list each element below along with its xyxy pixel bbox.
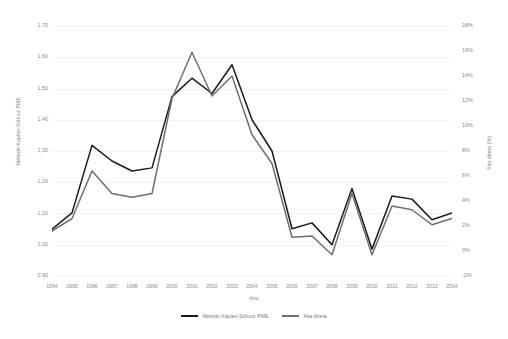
grid-line	[52, 276, 452, 277]
legend-label: Alta direta	[303, 313, 326, 319]
series-line	[52, 65, 452, 249]
y-axis-right-tick-label: 6%	[462, 173, 492, 178]
y-axis-left-title: Método Kaplan-Schuur PME	[15, 97, 21, 165]
y-axis-right-tick-label: -2%	[462, 273, 492, 278]
y-axis-left-tick-label: 1,70	[22, 23, 48, 28]
y-axis-left-tick-label: 0,90	[22, 273, 48, 278]
y-axis-left-tick-label: 1,60	[22, 54, 48, 59]
y-axis-left-tick-label: 1,30	[22, 148, 48, 153]
series-lines	[52, 26, 452, 276]
chart-legend: Método Kaplan-Schuur PMEAlta direta	[0, 313, 508, 319]
y-axis-left-tick-label: 1,50	[22, 86, 48, 91]
y-axis-right-tick-label: 2%	[462, 223, 492, 228]
y-axis-right-tick-label: 18%	[462, 23, 492, 28]
legend-swatch-icon	[282, 315, 299, 317]
plot-area	[52, 26, 452, 276]
y-axis-left-tick-label: 1,00	[22, 242, 48, 247]
y-axis-right-tick-label: 12%	[462, 98, 492, 103]
y-axis-right-tick-label: 8%	[462, 148, 492, 153]
series-line	[52, 52, 452, 255]
legend-swatch-icon	[181, 315, 198, 317]
legend-item[interactable]: Método Kaplan-Schuur PME	[181, 313, 268, 319]
y-axis-right-tick-label: 16%	[462, 48, 492, 53]
y-axis-left-tick-label: 1,10	[22, 211, 48, 216]
legend-item[interactable]: Alta direta	[282, 313, 326, 319]
y-axis-right-tick-label: 10%	[462, 123, 492, 128]
y-axis-left-tick-label: 1,40	[22, 117, 48, 122]
x-axis-title: Ano	[0, 295, 508, 301]
x-axis-tick-label: 2014	[440, 284, 464, 289]
chart-canvas: Método Kaplan-Schuur PME Alta direta (%)…	[0, 0, 508, 339]
y-axis-right-tick-label: 4%	[462, 198, 492, 203]
y-axis-right-tick-label: 0%	[462, 248, 492, 253]
y-axis-right-tick-label: 14%	[462, 73, 492, 78]
y-axis-left-tick-label: 1,20	[22, 179, 48, 184]
legend-label: Método Kaplan-Schuur PME	[202, 313, 268, 319]
